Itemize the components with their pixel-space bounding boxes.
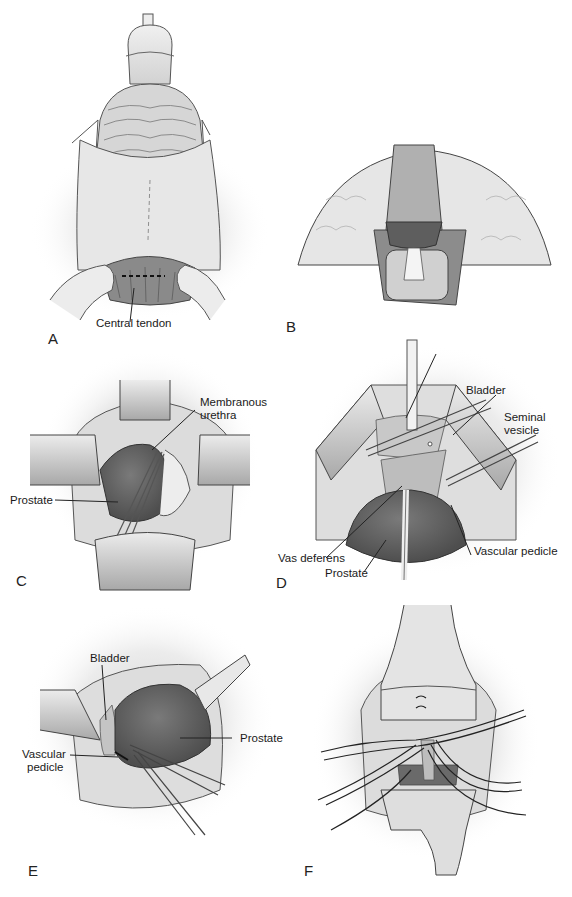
panel-e: Bladder Vascular pedicle Prostate E bbox=[0, 590, 286, 840]
retractor-exposure-illustration bbox=[286, 0, 572, 340]
label-bladder: Bladder bbox=[466, 384, 506, 397]
figure-caption-cropped bbox=[40, 884, 540, 897]
panel-a: Central tendon A bbox=[0, 0, 286, 330]
perineum-exposure-illustration bbox=[0, 0, 286, 330]
panel-letter-f: F bbox=[304, 862, 313, 879]
panel-f: F bbox=[286, 590, 572, 840]
prostate-exposure-illustration bbox=[0, 340, 286, 590]
label-prostate: Prostate bbox=[240, 732, 283, 745]
label-prostate: Prostate bbox=[10, 494, 53, 507]
label-vascular-pedicle: Vascular pedicle bbox=[474, 545, 558, 558]
panel-c: Membranous urethra Prostate C bbox=[0, 340, 286, 590]
panel-letter-b: B bbox=[286, 318, 296, 335]
label-vascular-pedicle-line2: pedicle bbox=[27, 761, 63, 774]
label-membranous-urethra-line1: Membranous bbox=[200, 396, 267, 409]
label-prostate: Prostate bbox=[325, 567, 368, 580]
label-vascular-pedicle-line1: Vascular bbox=[22, 748, 66, 761]
prostate-delivery-illustration bbox=[0, 590, 286, 840]
label-central-tendon: Central tendon bbox=[96, 317, 171, 330]
panel-b: B bbox=[286, 0, 572, 340]
label-vas-deferens: Vas deferens bbox=[278, 552, 345, 565]
panel-letter-c: C bbox=[16, 572, 27, 589]
label-seminal-vesicle-line1: Seminal bbox=[504, 411, 546, 424]
label-membranous-urethra-line2: urethra bbox=[200, 409, 236, 422]
panel-letter-d: D bbox=[276, 574, 287, 591]
label-bladder: Bladder bbox=[90, 652, 130, 665]
label-seminal-vesicle-line2: vesicle bbox=[504, 424, 539, 437]
vesicourethral-anastomosis-illustration bbox=[286, 590, 572, 880]
panel-d: Bladder Seminal vesicle Vas deferens Pro… bbox=[286, 340, 572, 590]
panel-letter-e: E bbox=[28, 862, 38, 879]
